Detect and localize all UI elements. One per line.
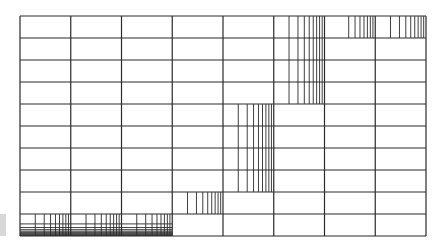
main-grid-layer xyxy=(20,16,426,236)
log-grid-diagram xyxy=(0,0,446,249)
